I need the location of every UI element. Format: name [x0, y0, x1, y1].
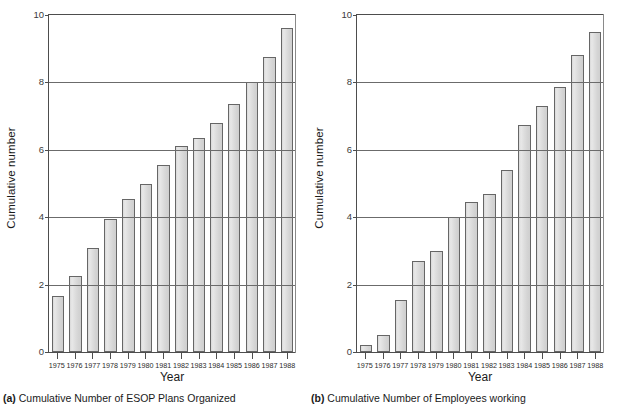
- y-tick-label: 8: [347, 78, 357, 88]
- bar: [589, 32, 602, 352]
- y-tick-label: 2: [39, 280, 49, 290]
- bar-cell: [463, 15, 481, 352]
- x-axis-title-b: Year: [356, 370, 604, 384]
- bar-cell: [357, 15, 375, 352]
- panel-a-letter: (a): [3, 392, 16, 404]
- figure-two-panel-bar-charts: Cumulative number 0246810 19751976197719…: [0, 0, 617, 411]
- y-tick-label: 4: [39, 212, 49, 222]
- bar-cell: [155, 15, 173, 352]
- panel-b-caption-text: Cumulative Number of Employees working: [327, 392, 525, 404]
- bar-cell: [190, 15, 208, 352]
- panel-b-letter: (b): [311, 392, 324, 404]
- bar: [157, 165, 170, 352]
- bar: [52, 296, 65, 352]
- bar: [518, 125, 531, 352]
- x-tick-label: 1984: [515, 353, 533, 370]
- bar-cell: [392, 15, 410, 352]
- x-tick-label: 1983: [498, 353, 516, 370]
- x-tick-label: 1987: [569, 353, 587, 370]
- bar: [140, 184, 153, 353]
- gridline: [49, 82, 296, 83]
- bar-cell: [225, 15, 243, 352]
- x-axis-title-a: Year: [48, 370, 296, 384]
- y-tick-label: 10: [33, 10, 49, 20]
- y-tick-label: 8: [39, 78, 49, 88]
- bar: [554, 87, 567, 352]
- plot-area-b: 0246810: [356, 14, 604, 353]
- x-tick-label: 1975: [356, 353, 374, 370]
- bar: [430, 251, 443, 352]
- y-tick-label: 6: [347, 145, 357, 155]
- x-tick-label: 1988: [586, 353, 604, 370]
- y-tick-label: 2: [347, 280, 357, 290]
- bar: [501, 170, 514, 352]
- x-tick-label: 1986: [551, 353, 569, 370]
- x-tick-label: 1987: [261, 353, 279, 370]
- bar-cell: [516, 15, 534, 352]
- bar: [281, 28, 294, 352]
- bar: [536, 106, 549, 352]
- x-tick-label: 1980: [445, 353, 463, 370]
- x-axis-ticks-a: 1975197619771978197919801981198219831984…: [48, 353, 296, 370]
- x-tick-label: 1976: [374, 353, 392, 370]
- bar-cell: [172, 15, 190, 352]
- y-axis-title-a: Cumulative number: [2, 0, 20, 355]
- gridline: [357, 150, 604, 151]
- x-tick-label: 1978: [101, 353, 119, 370]
- y-tick-label: 10: [341, 10, 357, 20]
- bar: [571, 55, 584, 352]
- bar-cell: [498, 15, 516, 352]
- y-axis-title-b-text: Cumulative number: [313, 127, 325, 228]
- x-tick-label: 1977: [83, 353, 101, 370]
- bar-cell: [375, 15, 393, 352]
- bar-cell: [84, 15, 102, 352]
- bar: [193, 138, 206, 352]
- bar: [175, 146, 188, 352]
- bar: [210, 123, 223, 352]
- x-tick-label: 1977: [391, 353, 409, 370]
- x-tick-label: 1976: [66, 353, 84, 370]
- bar-cell: [480, 15, 498, 352]
- x-tick-label: 1984: [207, 353, 225, 370]
- y-tick-label: 4: [347, 212, 357, 222]
- bar-cell: [551, 15, 569, 352]
- bar-cell: [120, 15, 138, 352]
- bar: [87, 248, 100, 352]
- bar: [228, 104, 241, 352]
- y-tick-label: 6: [39, 145, 49, 155]
- panel-a-caption-text: Cumulative Number of ESOP Plans Organize…: [19, 392, 236, 404]
- bar-cell: [208, 15, 226, 352]
- bar-cell: [586, 15, 604, 352]
- bar-cell: [410, 15, 428, 352]
- x-tick-label: 1979: [119, 353, 137, 370]
- bar: [412, 261, 425, 352]
- x-tick-label: 1979: [427, 353, 445, 370]
- gridline: [357, 217, 604, 218]
- x-tick-label: 1986: [243, 353, 261, 370]
- gridline: [49, 285, 296, 286]
- gridline: [357, 82, 604, 83]
- bar: [122, 199, 135, 352]
- panel-a-caption: (a) Cumulative Number of ESOP Plans Orga…: [3, 392, 236, 404]
- y-axis-title-a-text: Cumulative number: [5, 127, 17, 228]
- gridline: [49, 150, 296, 151]
- x-tick-label: 1985: [533, 353, 551, 370]
- x-tick-label: 1985: [225, 353, 243, 370]
- x-tick-label: 1983: [190, 353, 208, 370]
- panel-b: Cumulative number 0246810 19751976197719…: [308, 0, 616, 411]
- x-axis-ticks-b: 1975197619771978197919801981198219831984…: [356, 353, 604, 370]
- bar: [69, 276, 82, 352]
- bar-cell: [261, 15, 279, 352]
- bar: [377, 335, 390, 352]
- bar: [465, 202, 478, 352]
- bar-cell: [533, 15, 551, 352]
- bar: [263, 57, 276, 352]
- bar-cell: [278, 15, 296, 352]
- bar-cell: [243, 15, 261, 352]
- bar-cell: [137, 15, 155, 352]
- bar-cell: [49, 15, 67, 352]
- gridline: [357, 285, 604, 286]
- bar: [395, 300, 408, 352]
- bar-cell: [67, 15, 85, 352]
- x-tick-label: 1978: [409, 353, 427, 370]
